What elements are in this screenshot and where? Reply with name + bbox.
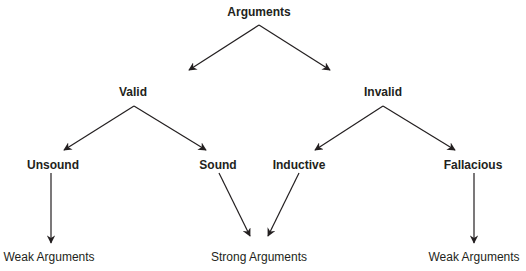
node-valid: Valid — [119, 85, 147, 99]
node-strong-arguments: Strong Arguments — [211, 250, 307, 264]
edge-arguments-valid — [189, 25, 259, 70]
node-unsound: Unsound — [27, 158, 79, 172]
edge-arguments-invalid — [259, 25, 330, 70]
edge-valid-sound — [134, 106, 206, 150]
edge-inductive-strong — [268, 173, 299, 236]
argument-classification-tree: Arguments Valid Invalid Unsound Sound In… — [0, 0, 526, 271]
edge-invalid-inductive — [315, 106, 383, 150]
tree-edges — [0, 0, 526, 271]
node-arguments: Arguments — [227, 5, 290, 19]
edge-invalid-fallacious — [383, 106, 455, 150]
node-weak-arguments-left: Weak Arguments — [3, 250, 94, 264]
edge-valid-unsound — [64, 106, 134, 150]
node-weak-arguments-right: Weak Arguments — [428, 250, 519, 264]
edge-sound-strong — [219, 173, 250, 236]
node-sound: Sound — [199, 158, 236, 172]
node-fallacious: Fallacious — [444, 158, 503, 172]
node-inductive: Inductive — [273, 158, 326, 172]
node-invalid: Invalid — [364, 85, 402, 99]
